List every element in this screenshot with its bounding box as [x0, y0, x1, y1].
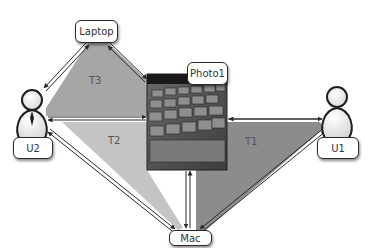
node-u2[interactable]: U2 — [13, 137, 53, 159]
node-laptop[interactable]: Laptop — [75, 20, 118, 43]
triangle-t3-label: T3 — [89, 75, 101, 86]
user-u2-icon[interactable] — [17, 90, 46, 140]
photo-image — [147, 74, 227, 170]
triangle-t2-label: T2 — [108, 135, 120, 146]
node-u1[interactable]: U1 — [317, 137, 359, 159]
user-u1-icon[interactable] — [322, 87, 351, 138]
node-mac[interactable]: Mac — [169, 230, 212, 246]
node-photo1[interactable]: Photo1 — [187, 62, 228, 85]
diagram-canvas — [0, 0, 369, 248]
triangle-t1-label: T1 — [245, 136, 257, 147]
